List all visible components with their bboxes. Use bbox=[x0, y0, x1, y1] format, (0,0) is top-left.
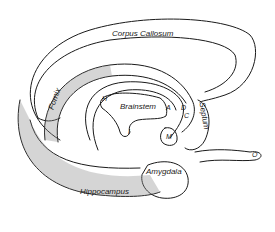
label-c: C bbox=[184, 112, 189, 119]
label-a: A bbox=[166, 104, 171, 111]
label-amygdala: Amygdala bbox=[146, 168, 182, 176]
limbic-system-diagram: Corpus Callosum Fornix Brainstem H A I M… bbox=[0, 0, 275, 232]
label-hippocampus: Hippocampus bbox=[80, 188, 129, 196]
brainstem-outline bbox=[100, 93, 166, 136]
label-m: M bbox=[166, 133, 172, 140]
label-o: O bbox=[252, 151, 257, 158]
label-corpus-callosum: Corpus Callosum bbox=[112, 30, 173, 38]
hippocampus-shading bbox=[18, 100, 160, 196]
label-h: H bbox=[102, 95, 107, 102]
label-i: I bbox=[128, 128, 130, 135]
label-d: D bbox=[181, 104, 186, 111]
label-brainstem: Brainstem bbox=[120, 103, 156, 111]
